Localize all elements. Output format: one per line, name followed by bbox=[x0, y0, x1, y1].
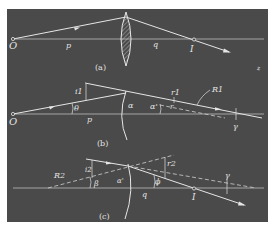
label-I: I bbox=[191, 192, 196, 202]
label-i2: i2 bbox=[85, 166, 92, 174]
label-I: I bbox=[189, 44, 194, 54]
label-p: p bbox=[87, 115, 92, 124]
image-point-I bbox=[192, 187, 195, 190]
label-q: q bbox=[142, 190, 147, 199]
label-phi: ϕ bbox=[155, 177, 161, 186]
label-O: O bbox=[9, 40, 17, 51]
label-alpha-prime: α' bbox=[117, 177, 124, 185]
label-r2: r2 bbox=[167, 159, 176, 168]
label-alpha: α bbox=[128, 101, 134, 110]
caption-b: (b) bbox=[97, 139, 108, 148]
label-theta: θ bbox=[74, 104, 79, 113]
label-i1: i1 bbox=[75, 87, 83, 96]
optics-figure: O p q I (a) z O p i1 θ bbox=[0, 0, 275, 231]
label-R2: R2 bbox=[53, 171, 65, 180]
label-gamma: γ bbox=[225, 171, 230, 180]
label-gamma: γ bbox=[233, 122, 238, 131]
label-beta: β bbox=[93, 179, 99, 188]
label-p: p bbox=[66, 41, 71, 50]
label-O: O bbox=[9, 116, 17, 127]
caption-a: (a) bbox=[95, 63, 106, 72]
label-q: q bbox=[153, 40, 158, 49]
figure-background bbox=[7, 9, 268, 222]
label-alpha-prime: α' bbox=[150, 102, 158, 111]
label-R1: R1 bbox=[211, 85, 223, 94]
label-r1: r1 bbox=[171, 88, 180, 97]
image-point-I bbox=[192, 38, 195, 41]
caption-c: (c) bbox=[99, 212, 110, 221]
